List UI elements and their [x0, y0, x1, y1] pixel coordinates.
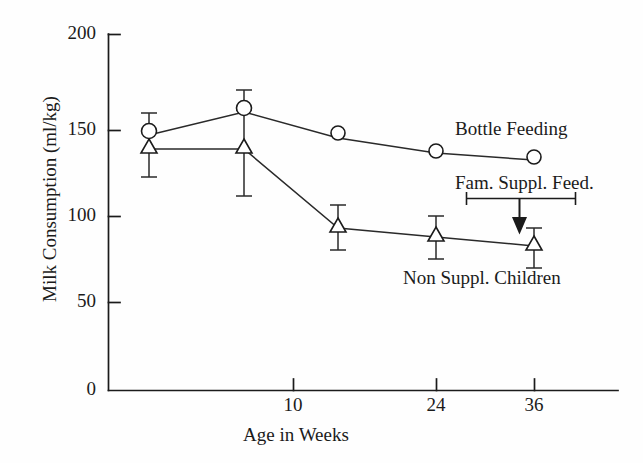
- annotation-label-fam-suppl-feed: Fam. Suppl. Feed.: [455, 172, 594, 194]
- fam-suppl-arrow: [514, 199, 526, 232]
- marker-triangle: [236, 139, 252, 153]
- y-tick-label-0: 0: [40, 378, 96, 400]
- marker-circle: [142, 124, 157, 139]
- marker-circle: [429, 144, 443, 158]
- x-axis-title: Age in Weeks: [196, 424, 396, 446]
- marker-triangle: [526, 236, 542, 250]
- marker-circle: [237, 101, 252, 116]
- milk-consumption-chart: 200 150 100 50 0 10 24 36 Milk Consumpti…: [0, 0, 643, 463]
- x-tick-label-24: 24: [406, 394, 466, 416]
- bottle-errorbars: [141, 90, 252, 131]
- marker-circle: [527, 150, 541, 164]
- marker-triangle: [141, 139, 157, 153]
- series-label-bottle-feeding: Bottle Feeding: [455, 118, 567, 140]
- marker-triangle: [428, 227, 444, 241]
- marker-triangle: [330, 218, 346, 232]
- x-tick-label-36: 36: [504, 394, 564, 416]
- x-tick-label-10: 10: [263, 394, 323, 416]
- marker-circle: [331, 126, 345, 140]
- y-tick-label-200: 200: [40, 22, 96, 44]
- series-label-non-suppl-children: Non Suppl. Children: [403, 267, 561, 289]
- axes: [109, 34, 619, 391]
- y-axis-title: Milk Consumption (ml/kg): [39, 74, 61, 324]
